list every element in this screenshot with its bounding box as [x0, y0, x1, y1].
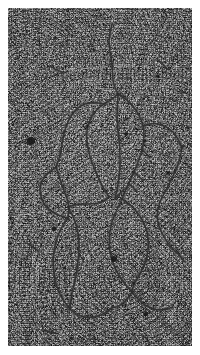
branch-feather-c: [129, 184, 137, 192]
eye2-right-strand: [122, 199, 149, 292]
stain-blob-lower-right: [144, 312, 148, 316]
bottom-left-cap: [70, 307, 113, 317]
right-mid-descender: [157, 148, 182, 217]
stain-blob-left-mid: [86, 125, 89, 128]
dna-fiber-svg: [8, 8, 192, 346]
stain-blob-upper-mid: [138, 67, 140, 69]
eye1-right-strand-halo: [118, 94, 144, 199]
stain-blob-left-loop: [52, 227, 57, 232]
stray-fragment-bottom: [44, 330, 56, 333]
dna-fiber-cores: [28, 24, 185, 333]
stain-blob-left-arm: [47, 290, 50, 293]
stain-blob-bottom-left: [71, 337, 74, 340]
stray-fragment-upper-right: [158, 60, 167, 69]
left-small-loop-inner: [56, 167, 69, 218]
dna-fiber-halos: [28, 24, 185, 333]
branch-feather-a: [134, 172, 143, 180]
stain-blob-eye1-low: [109, 186, 112, 189]
stain-blob-top-left: [54, 37, 57, 40]
left-lobe-descender-halo: [53, 218, 70, 309]
stain-blob-right-lower: [178, 240, 181, 243]
eye2-right-strand-halo: [122, 199, 149, 292]
eye2-bottom-junction-halo: [113, 292, 132, 307]
dna-fiber-layer: [8, 8, 192, 346]
mid-junction-to-left-lobe: [56, 103, 104, 167]
stain-blob-eye1-right: [143, 139, 147, 143]
left-branch-descender: [68, 197, 109, 207]
stain-blob-right-field: [166, 171, 170, 175]
eye2-left-strand: [109, 199, 132, 292]
stain-blob-right-edge: [187, 127, 190, 130]
stain-blob-group: [27, 37, 190, 340]
stain-blob-mid-right: [131, 281, 134, 284]
stray-fragment-left-edge: [28, 244, 38, 251]
left-lobe-return-halo: [68, 207, 79, 309]
stain-blob-upper-right: [155, 74, 158, 77]
micrograph-plate: [8, 8, 192, 346]
stain-blob-top-center: [93, 49, 96, 52]
stain-blob-eye2-core: [111, 256, 117, 262]
micrograph-figure: [0, 0, 200, 355]
stain-blob-eye1-upper: [124, 132, 128, 136]
eye1-left-strand-halo: [87, 94, 118, 197]
branch-feather-b: [142, 150, 150, 158]
right-upper-arm: [143, 124, 182, 148]
right-lower-arc-halo: [157, 217, 185, 262]
eye1-left-strand: [87, 94, 118, 197]
bottom-right-arm-halo: [132, 292, 173, 310]
stain-blob-center: [119, 217, 122, 220]
stain-blob-lower-center: [103, 302, 106, 305]
eye1-right-strand: [118, 94, 144, 199]
stain-blob-major-left: [27, 137, 35, 145]
